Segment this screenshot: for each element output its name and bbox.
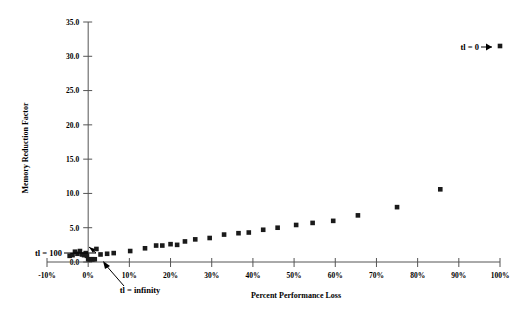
y-axis-tick-label: 5.0 [70,224,80,233]
data-point-marker [275,225,280,230]
y-axis-tick-label: 20.0 [66,121,79,130]
annotation-tl-hundred-arrowhead [89,247,95,253]
x-axis-tick-label: 0% [83,271,94,280]
y-axis-tick-label: 10.0 [66,189,79,198]
data-point-marker [160,243,165,248]
data-point-marker [98,252,103,257]
data-point-marker [105,251,110,256]
chart-figure: 0.05.010.015.020.025.030.035.0 -10%0%10%… [0,0,523,311]
data-point-marker [175,243,180,248]
y-axis-tick-label: 30.0 [66,52,79,61]
data-point-marker [183,239,188,244]
data-point-marker [331,219,336,224]
data-point-series [67,44,502,262]
data-point-marker [438,187,443,192]
x-axis-tick-label: 30% [204,271,219,280]
x-axis-tick-label: 60% [328,271,343,280]
data-point-marker [111,251,116,256]
x-axis-tick-label: 10% [122,271,137,280]
data-point-marker [294,223,299,228]
annotation-tl-zero: tl = 0 [460,42,492,52]
data-point-marker [261,227,266,232]
data-point-marker [143,246,148,251]
data-point-marker [193,237,198,242]
x-axis-title: Percent Performance Loss [251,291,341,300]
annotation-tl-hundred-label: tl = 100 [35,248,62,258]
data-point-marker [246,230,251,235]
x-axis-tick-label: 100% [491,271,510,280]
scatter-plot: 0.05.010.015.020.025.030.035.0 -10%0%10%… [0,0,523,311]
x-axis-tick-label: 50% [287,271,302,280]
x-axis-tick-label: 90% [451,271,466,280]
annotation-tl-zero-arrowhead [486,44,492,51]
data-point-marker [154,243,159,248]
data-point-marker [92,257,97,262]
data-point-marker [222,232,227,237]
y-axis-tick-label: 25.0 [66,86,79,95]
y-axis-tick-label: 35.0 [66,18,79,27]
y-axis-tick-label: 15.0 [66,155,79,164]
x-axis-tick-label: 80% [410,271,425,280]
data-point-marker [207,236,212,241]
data-point-marker [128,249,133,254]
x-axis-tick-label: 70% [369,271,384,280]
data-point-marker [236,231,241,236]
x-axis-tick-label: 40% [245,271,260,280]
annotation-tl-zero-label: tl = 0 [460,42,479,52]
data-point-marker [168,242,173,247]
y-axis-title: Memory Reduction Factor [21,102,30,194]
x-axis-tick-label: -10% [38,271,56,280]
y-axis: 0.05.010.015.020.025.030.035.0 [66,18,92,267]
data-point-marker [356,213,361,218]
annotation-tl-infinity-label: tl = infinity [120,285,161,295]
x-axis-tick-label: 20% [163,271,178,280]
data-point-marker [310,221,315,226]
data-point-marker [498,44,503,49]
data-point-marker [395,205,400,210]
